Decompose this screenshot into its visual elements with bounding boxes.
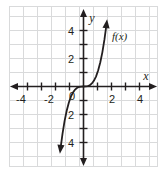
x-tick-label-neg2: -2 — [44, 93, 54, 105]
coordinate-plane-svg: -4 -2 2 4 4 2 2 4 0 x y f(x) — [0, 0, 166, 172]
x-axis-label: x — [142, 69, 149, 83]
x-tick-label-neg4: -4 — [16, 93, 26, 105]
function-curve-label: f(x) — [112, 30, 128, 43]
y-tick-label-pos4: 4 — [68, 25, 74, 37]
coordinate-graph-figure: -4 -2 2 4 4 2 2 4 0 x y f(x) — [0, 0, 166, 172]
y-tick-label-pos2: 2 — [68, 53, 74, 65]
origin-label: 0 — [69, 90, 75, 102]
x-tick-label-pos2: 2 — [109, 93, 115, 105]
x-tick-label-pos4: 4 — [137, 93, 143, 105]
y-axis-label: y — [88, 11, 95, 25]
y-tick-label-neg4: 4 — [68, 137, 74, 149]
y-tick-label-neg2: 2 — [68, 109, 74, 121]
